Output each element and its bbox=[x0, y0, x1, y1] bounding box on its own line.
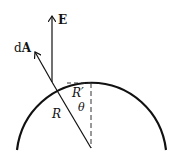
label-r-prime: R′ bbox=[71, 86, 84, 100]
label-radius: R bbox=[51, 107, 61, 121]
label-theta: θ bbox=[78, 101, 85, 114]
diagram-canvas: E dA R′ R θ bbox=[0, 0, 176, 159]
label-e-field: E bbox=[58, 13, 67, 27]
label-da: dA bbox=[14, 41, 32, 55]
da-vector-arrow bbox=[35, 52, 52, 82]
label-da-vector: A bbox=[21, 41, 32, 55]
